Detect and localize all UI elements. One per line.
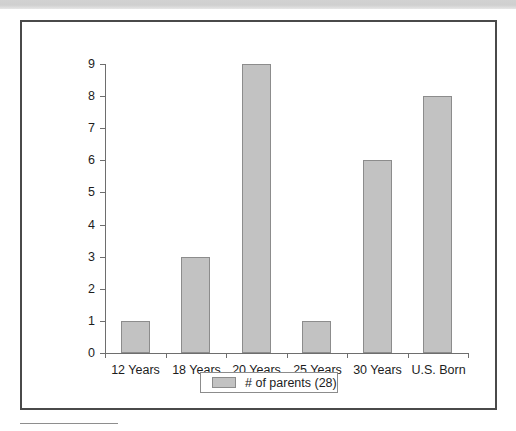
- x-axis-category-label: U.S. Born: [408, 362, 469, 378]
- y-axis-tick-label: 6: [22, 152, 95, 168]
- y-axis-tick-label: 9: [22, 56, 95, 72]
- x-axis-tick: [287, 353, 288, 358]
- chart-figure-frame: 0123456789 12 Years18 Years20 Years25 Ye…: [20, 20, 497, 410]
- y-axis-tick-label: 4: [22, 217, 95, 233]
- legend-label: # of parents (28): [245, 376, 337, 390]
- bar: [181, 257, 210, 353]
- bar-series-layer: [105, 64, 468, 353]
- x-axis-tick: [166, 353, 167, 358]
- y-axis-tick-label: 8: [22, 88, 95, 104]
- legend-swatch-icon: [212, 377, 236, 388]
- bar: [121, 321, 150, 353]
- y-axis-tick-label: 5: [22, 184, 95, 200]
- y-axis-tick-label: 3: [22, 249, 95, 265]
- y-axis-tick-label: 7: [22, 120, 95, 136]
- bar: [423, 96, 452, 353]
- chart-legend: # of parents (28): [200, 372, 338, 393]
- x-axis-tick: [226, 353, 227, 358]
- x-axis-tick: [468, 353, 469, 358]
- y-axis-tick-label: 2: [22, 281, 95, 297]
- x-axis-tick: [105, 353, 106, 358]
- x-axis-category-label: 12 Years: [105, 362, 166, 378]
- x-axis-category-label: 30 Years: [347, 362, 408, 378]
- bar: [242, 64, 271, 353]
- x-axis-tick: [347, 353, 348, 358]
- x-axis-tick: [408, 353, 409, 358]
- y-axis-tick-label: 1: [22, 313, 95, 329]
- scan-top-band: [0, 0, 516, 9]
- y-axis-tick-label: 0: [22, 345, 95, 361]
- footnote-separator-rule: [20, 423, 118, 424]
- bar: [302, 321, 331, 353]
- bar: [363, 160, 392, 353]
